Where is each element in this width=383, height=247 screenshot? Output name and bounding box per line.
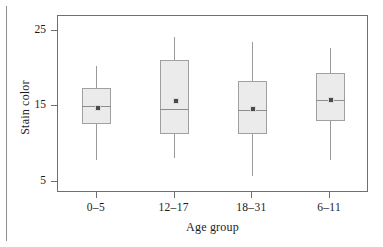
x-axis-title: Age group	[57, 220, 368, 235]
x-axis-tick-label: 0–5	[61, 201, 131, 213]
x-axis-tick	[329, 192, 330, 198]
y-axis-tick-label: 25	[16, 24, 46, 35]
y-axis-tick-label: 5	[16, 175, 46, 186]
boxplot-mean-marker	[173, 98, 179, 104]
page-edge-rule	[6, 6, 7, 241]
boxplot-mean-marker	[250, 106, 256, 112]
x-axis-tick-label: 6–11	[294, 201, 364, 213]
x-axis-tick	[251, 192, 252, 198]
boxplot-median-line	[160, 109, 189, 110]
x-axis-tick	[174, 192, 175, 198]
boxplot-mean-marker	[328, 97, 334, 103]
plot-area	[57, 15, 368, 192]
boxplot-mean-marker	[95, 105, 101, 111]
x-axis-tick	[96, 192, 97, 198]
x-axis-tick-label: 18–31	[216, 201, 286, 213]
y-axis-tick-label: 15	[16, 99, 46, 110]
x-axis-tick-label: 12–17	[139, 201, 209, 213]
boxplot-figure: Stain color 25155 0–512–1718–316–11 Age …	[0, 0, 383, 247]
